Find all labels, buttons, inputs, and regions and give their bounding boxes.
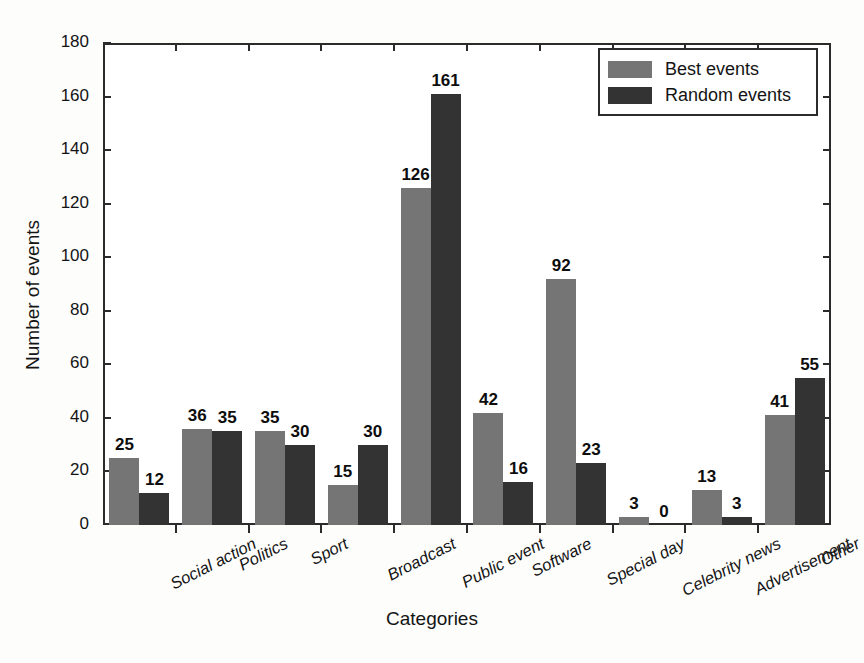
- bar: [212, 431, 242, 525]
- bar: [795, 378, 825, 525]
- y-tick-label: 40: [70, 407, 89, 427]
- bar-value-label: 55: [788, 355, 832, 375]
- top-axis-tick: [248, 43, 250, 51]
- x-axis-tick: [393, 525, 395, 533]
- x-axis-tick: [320, 525, 322, 533]
- x-axis-title: Categories: [0, 608, 864, 630]
- y-tick-label: 140: [61, 139, 89, 159]
- y-tick-label: 160: [61, 86, 89, 106]
- bar-value-label: 42: [466, 390, 510, 410]
- x-axis-tick: [248, 525, 250, 533]
- legend-item-random-events: Random events: [608, 82, 808, 108]
- legend-item-best-events: Best events: [608, 56, 808, 82]
- right-axis-tick: [823, 149, 831, 151]
- bar: [358, 445, 388, 525]
- bar: [546, 279, 576, 525]
- y-tick-mark: [103, 310, 111, 312]
- y-axis-title: Number of events: [22, 95, 44, 495]
- bar-value-label: 12: [132, 470, 176, 490]
- bar-value-label: 13: [685, 467, 729, 487]
- legend-swatch-icon: [608, 61, 652, 78]
- y-tick-mark: [103, 96, 111, 98]
- legend-swatch-icon: [608, 87, 652, 104]
- bar: [109, 458, 139, 525]
- bar-value-label: 16: [496, 459, 540, 479]
- legend-label: Best events: [665, 59, 759, 80]
- y-tick-label: 0: [80, 514, 89, 534]
- bar: [576, 463, 606, 525]
- bar-value-label: 30: [278, 422, 322, 442]
- y-tick-label: 100: [61, 246, 89, 266]
- bar: [431, 94, 461, 525]
- x-axis-tick: [539, 525, 541, 533]
- y-tick-label: 120: [61, 193, 89, 213]
- top-axis-tick: [466, 43, 468, 51]
- x-axis-tick: [612, 525, 614, 533]
- top-axis-tick: [320, 43, 322, 51]
- bar: [139, 493, 169, 525]
- bar-value-label: 161: [424, 71, 468, 91]
- y-tick-mark: [103, 256, 111, 258]
- right-axis-tick: [823, 96, 831, 98]
- x-tick-label: Special day: [603, 534, 688, 590]
- bar-value-label: 25: [102, 435, 146, 455]
- chart-legend: Best events Random events: [598, 48, 818, 116]
- y-tick-mark: [103, 42, 111, 44]
- x-tick-label: Broadcast: [384, 534, 459, 585]
- bar: [765, 415, 795, 525]
- chart-page: 020406080100120140160180 251236353530153…: [0, 0, 864, 663]
- y-tick-mark: [103, 149, 111, 151]
- top-axis-tick: [175, 43, 177, 51]
- bar: [182, 429, 212, 525]
- bar-value-label: 0: [642, 502, 686, 522]
- y-tick-label: 180: [61, 32, 89, 52]
- top-axis-tick: [393, 43, 395, 51]
- x-axis-tick: [757, 525, 759, 533]
- bar: [401, 188, 431, 525]
- y-tick-label: 60: [70, 353, 89, 373]
- bar-value-label: 35: [205, 408, 249, 428]
- right-axis-tick: [823, 310, 831, 312]
- y-tick-label: 80: [70, 300, 89, 320]
- x-tick-label: Sport: [307, 534, 351, 569]
- bar: [328, 485, 358, 525]
- x-axis-tick: [466, 525, 468, 533]
- y-tick-mark: [103, 203, 111, 205]
- x-axis-tick: [684, 525, 686, 533]
- y-tick-mark: [103, 363, 111, 365]
- bar: [722, 517, 752, 525]
- legend-label: Random events: [665, 85, 791, 106]
- bar-value-label: 23: [569, 440, 613, 460]
- bar: [503, 482, 533, 525]
- bar-value-label: 92: [539, 256, 583, 276]
- y-tick-label: 20: [70, 460, 89, 480]
- bar: [255, 431, 285, 525]
- right-axis-tick: [823, 203, 831, 205]
- bar: [285, 445, 315, 525]
- bar-value-label: 30: [351, 422, 395, 442]
- x-axis-tick: [175, 525, 177, 533]
- right-axis-tick: [823, 256, 831, 258]
- y-tick-mark: [103, 417, 111, 419]
- top-axis-tick: [539, 43, 541, 51]
- bar-value-label: 3: [715, 494, 759, 514]
